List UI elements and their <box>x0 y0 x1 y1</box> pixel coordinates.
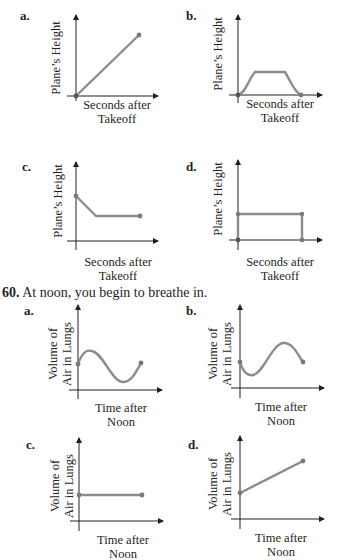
graph-letter-60a: a. <box>24 303 34 319</box>
x-axis-label-60c: Time after Noon <box>68 533 178 560</box>
x-axis-label-line2: Noon <box>68 547 178 560</box>
graph-letter-59d: d. <box>186 159 196 175</box>
y-axis-label-line2: Air in Lungs <box>220 444 234 524</box>
graph-60d <box>231 436 324 529</box>
y-axis-label-60b: Volume of Air in Lungs <box>206 314 234 394</box>
x-axis-label-59c: Seconds after Takeoff <box>63 255 173 283</box>
start-point <box>74 194 79 199</box>
corner-point <box>236 212 240 216</box>
end-point <box>137 33 142 38</box>
x-axis-label-59d: Seconds after Takeoff <box>225 255 335 283</box>
height-curve <box>238 214 302 240</box>
x-axis-label-60d: Time after Noon <box>226 531 336 559</box>
y-axis-label-line1: Volume of <box>48 446 62 526</box>
y-axis-label-59d: Plane’s Height <box>211 149 225 249</box>
x-axis-label-line1: Time after <box>66 401 176 415</box>
graph-60c <box>70 438 163 531</box>
start-point <box>236 238 241 243</box>
y-axis-label-line1: Volume of <box>206 314 220 394</box>
y-axis-label-line2: Air in Lungs <box>60 314 74 394</box>
graph-letter-60c: c. <box>26 437 35 453</box>
y-axis-label-line2: Air in Lungs <box>62 446 76 526</box>
x-axis-label-59a: Seconds after Takeoff <box>62 98 172 126</box>
y-axis-label-60d: Volume of Air in Lungs <box>206 444 234 524</box>
x-axis-label-60b: Time after Noon <box>226 400 336 428</box>
y-axis-label-line2: Air in Lungs <box>220 314 234 394</box>
end-point <box>139 361 144 366</box>
x-axis-label-line2: Takeoff <box>63 269 173 283</box>
question-number: 60. <box>2 285 20 300</box>
x-axis-label-line2: Noon <box>66 415 176 429</box>
question-60: 60. At noon, you begin to breathe in. <box>2 285 207 301</box>
x-axis-label-line1: Seconds after <box>225 97 335 111</box>
graph-59a <box>67 15 158 101</box>
volume-curve <box>240 461 303 493</box>
height-curve <box>238 72 301 95</box>
graph-59b <box>229 15 322 103</box>
start-point <box>76 362 81 367</box>
end-point <box>301 459 306 464</box>
x-axis-label-line1: Time after <box>226 400 336 414</box>
x-axis-label-line2: Takeoff <box>225 111 335 125</box>
start-point <box>238 360 243 365</box>
x-axis-label-60a: Time after Noon <box>66 401 176 429</box>
graph-letter-59a: a. <box>20 8 30 24</box>
corner-point <box>300 212 304 216</box>
graph-60a <box>69 305 162 399</box>
question-prompt: At noon, you begin to breathe in. <box>22 285 207 300</box>
y-axis-label-59c: Plane’s Height <box>51 151 65 251</box>
graph-59c <box>67 162 158 250</box>
graph-letter-60d: d. <box>188 437 198 453</box>
graph-letter-59b: b. <box>186 8 196 24</box>
y-axis-label-59a: Plane’s Height <box>49 8 63 108</box>
x-axis-label-line2: Takeoff <box>62 112 172 126</box>
x-axis-label-59b: Seconds after Takeoff <box>225 97 335 125</box>
y-axis-label-line1: Volume of <box>46 314 60 394</box>
volume-curve <box>78 351 141 382</box>
graph-60b <box>231 305 324 398</box>
height-curve <box>76 35 139 96</box>
x-axis-label-line1: Seconds after <box>62 98 172 112</box>
x-axis-label-line2: Noon <box>226 414 336 428</box>
x-axis-label-line1: Seconds after <box>63 255 173 269</box>
graph-letter-60b: b. <box>186 303 196 319</box>
x-axis-label-line2: Noon <box>226 545 336 559</box>
x-axis-label-line1: Time after <box>68 533 178 547</box>
graph-59d <box>229 160 322 250</box>
y-axis-label-60c: Volume of Air in Lungs <box>48 446 76 526</box>
end-point <box>301 360 306 365</box>
x-axis-label-line1: Time after <box>226 531 336 545</box>
x-axis-label-line1: Seconds after <box>225 255 335 269</box>
y-axis-label-59b: Plane’s Height <box>211 4 225 104</box>
height-curve <box>76 196 140 216</box>
end-point <box>138 214 143 219</box>
graph-letter-59c: c. <box>22 159 31 175</box>
end-point <box>300 238 305 243</box>
volume-curve <box>240 343 303 375</box>
end-point <box>140 493 145 498</box>
y-axis-label-60a: Volume of Air in Lungs <box>46 314 74 394</box>
start-point <box>238 491 243 496</box>
y-axis-label-line1: Volume of <box>206 444 220 524</box>
x-axis-label-line2: Takeoff <box>225 269 335 283</box>
start-point <box>77 493 82 498</box>
